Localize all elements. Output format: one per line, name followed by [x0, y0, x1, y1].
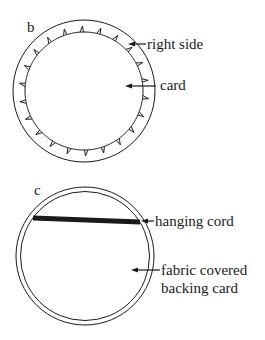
label-backing-card: backing card: [161, 280, 238, 296]
outer-fabric-circle: [13, 20, 155, 162]
label-card: card: [160, 77, 186, 93]
hanging-cord-bar: [33, 218, 140, 222]
label-fabric-covered: fabric covered: [161, 262, 247, 278]
arrowhead-icon: [141, 219, 148, 224]
panel-label-c: c: [34, 182, 41, 198]
inner-card-circle-with-spikes: [19, 26, 148, 156]
outer-circle: [16, 187, 154, 325]
arrowhead-icon: [131, 268, 138, 273]
figure-b-drawing: [0, 0, 265, 170]
inner-circle: [21, 192, 150, 321]
figure-b-card-with-fabric: b right side card: [0, 0, 265, 170]
label-right-side: right side: [147, 36, 203, 52]
arrowhead-icon: [125, 84, 132, 89]
panel-label-b: b: [27, 19, 35, 35]
arrowhead-icon: [128, 42, 135, 47]
figure-c-backing-card: c hanging cord fabric covered backing ca…: [0, 170, 265, 340]
label-hanging-cord: hanging cord: [155, 213, 234, 229]
